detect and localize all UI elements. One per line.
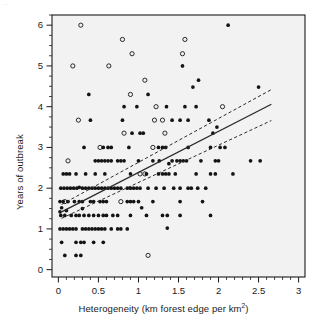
data-point-filled bbox=[172, 186, 176, 190]
data-point-filled bbox=[213, 172, 217, 176]
y-tick-label: 6 bbox=[24, 19, 43, 30]
data-point-filled bbox=[121, 118, 125, 122]
data-point-filled bbox=[204, 186, 208, 190]
x-axis-title-text: Heterogeneity (km forest edge per km2) bbox=[78, 303, 248, 314]
data-point-filled bbox=[82, 241, 86, 245]
data-point-filled bbox=[82, 214, 86, 218]
data-point-filled bbox=[125, 227, 129, 231]
data-point-filled bbox=[77, 186, 81, 190]
data-point-filled bbox=[178, 159, 182, 163]
data-point-filled bbox=[167, 172, 171, 176]
data-point-filled bbox=[71, 227, 75, 231]
data-point-open bbox=[122, 131, 126, 135]
data-point-filled bbox=[186, 118, 190, 122]
data-point-filled bbox=[217, 159, 221, 163]
data-point-filled bbox=[60, 206, 64, 210]
data-point-filled bbox=[138, 131, 142, 135]
data-point-filled bbox=[191, 85, 195, 89]
x-tick-label: 0 bbox=[44, 285, 72, 296]
data-point-filled bbox=[65, 172, 69, 176]
data-point-open bbox=[128, 92, 132, 96]
data-point-filled bbox=[84, 172, 88, 176]
data-point-filled bbox=[58, 200, 62, 204]
data-point-filled bbox=[178, 200, 182, 204]
data-point-filled bbox=[59, 186, 63, 190]
data-point-filled bbox=[157, 146, 161, 150]
data-point-filled bbox=[58, 227, 62, 231]
data-point-filled bbox=[109, 227, 113, 231]
data-point-filled bbox=[258, 159, 262, 163]
data-point-open bbox=[152, 118, 156, 122]
data-point-filled bbox=[146, 93, 150, 97]
data-point-filled bbox=[105, 200, 109, 204]
data-point-filled bbox=[218, 146, 222, 150]
data-point-filled bbox=[87, 214, 91, 218]
x-tick-label: 1.5 bbox=[165, 285, 193, 296]
data-point-filled bbox=[189, 186, 193, 190]
data-point-filled bbox=[122, 159, 126, 163]
data-point-open bbox=[76, 118, 80, 122]
data-point-filled bbox=[65, 227, 69, 231]
data-point-open bbox=[130, 52, 134, 56]
data-point-filled bbox=[79, 241, 83, 245]
data-point-filled bbox=[74, 254, 78, 258]
data-point-filled bbox=[72, 186, 76, 190]
data-point-filled bbox=[170, 159, 174, 163]
data-point-filled bbox=[101, 200, 105, 204]
data-point-filled bbox=[146, 186, 150, 190]
data-point-filled bbox=[97, 227, 101, 231]
data-point-filled bbox=[164, 172, 168, 176]
data-point-filled bbox=[119, 186, 123, 190]
data-point-filled bbox=[69, 214, 73, 218]
data-point-open bbox=[71, 64, 75, 68]
data-point-filled bbox=[226, 23, 230, 27]
data-point-filled bbox=[201, 200, 205, 204]
data-point-filled bbox=[92, 241, 96, 245]
data-point-filled bbox=[249, 159, 253, 163]
data-point-filled bbox=[58, 210, 62, 214]
data-point-filled bbox=[165, 105, 169, 109]
y-tick-label: 4 bbox=[24, 101, 43, 112]
data-point-filled bbox=[207, 118, 211, 122]
y-axis-ticks bbox=[47, 15, 53, 270]
x-tick-label: 0.5 bbox=[84, 285, 112, 296]
data-point-filled bbox=[82, 146, 86, 150]
x-tick-label: 2 bbox=[205, 285, 233, 296]
x-tick-label: 1 bbox=[124, 285, 152, 296]
data-point-filled bbox=[90, 227, 94, 231]
data-point-filled bbox=[89, 200, 93, 204]
data-point-open bbox=[220, 105, 224, 109]
data-point-filled bbox=[106, 159, 110, 163]
data-point-filled bbox=[113, 186, 117, 190]
data-point-filled bbox=[109, 159, 113, 163]
data-point-filled bbox=[116, 214, 120, 218]
data-point-filled bbox=[145, 172, 149, 176]
data-point-open bbox=[143, 78, 147, 82]
y-axis-title: Years of outbreak bbox=[14, 134, 25, 210]
data-point-filled bbox=[84, 227, 88, 231]
data-point-filled bbox=[92, 214, 96, 218]
data-point-filled bbox=[93, 227, 97, 231]
data-point-filled bbox=[74, 241, 78, 245]
data-point-filled bbox=[137, 200, 141, 204]
y-tick-label: 5 bbox=[24, 60, 43, 71]
data-point-filled bbox=[105, 214, 109, 218]
data-point-filled bbox=[199, 159, 203, 163]
data-point-open bbox=[180, 52, 184, 56]
data-point-filled bbox=[100, 186, 104, 190]
data-point-filled bbox=[100, 159, 104, 163]
data-point-filled bbox=[170, 118, 174, 122]
data-point-filled bbox=[161, 146, 165, 150]
data-point-filled bbox=[181, 64, 185, 68]
data-point-filled bbox=[129, 214, 133, 218]
data-point-filled bbox=[119, 227, 123, 231]
data-point-filled bbox=[135, 105, 139, 109]
data-point-filled bbox=[62, 186, 66, 190]
data-point-filled bbox=[161, 214, 165, 218]
data-point-filled bbox=[74, 172, 78, 176]
data-point-filled bbox=[151, 200, 155, 204]
plot-panel-background bbox=[52, 15, 305, 277]
data-point-filled bbox=[141, 131, 145, 135]
data-point-filled bbox=[231, 172, 235, 176]
data-point-filled bbox=[77, 214, 81, 218]
